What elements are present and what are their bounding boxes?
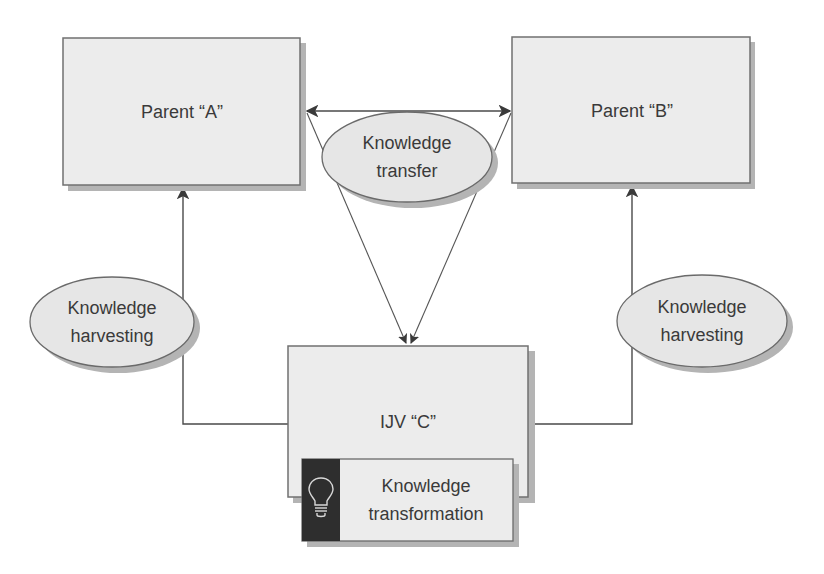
transformation-label-line2: transformation <box>368 504 483 524</box>
ijv-c-label: IJV “C” <box>380 412 436 432</box>
knowledge-harvesting-right-oval[interactable]: Knowledge harvesting <box>617 275 793 373</box>
harvest-left-label-line2: harvesting <box>70 326 153 346</box>
transfer-label-line1: Knowledge <box>362 133 451 153</box>
parent-a-box[interactable]: Parent “A” <box>63 38 306 191</box>
transformation-label-line1: Knowledge <box>381 476 470 496</box>
harvest-right-label-line1: Knowledge <box>657 297 746 317</box>
harvest-left-label-line1: Knowledge <box>67 298 156 318</box>
parent-b-box[interactable]: Parent “B” <box>512 37 755 189</box>
knowledge-transfer-oval[interactable]: Knowledge transfer <box>322 112 498 208</box>
harvest-line-c-to-a <box>183 188 288 424</box>
knowledge-harvesting-left-oval[interactable]: Knowledge harvesting <box>30 277 200 373</box>
knowledge-flow-diagram: Parent “A” Parent “B” Knowledge transfer… <box>0 0 824 574</box>
knowledge-transformation-card[interactable]: Knowledge transformation <box>302 459 519 547</box>
harvest-right-label-line2: harvesting <box>660 325 743 345</box>
harvest-line-c-to-b <box>528 186 632 424</box>
transfer-label-line2: transfer <box>376 161 437 181</box>
icon-panel <box>302 459 340 541</box>
parent-b-label: Parent “B” <box>591 101 673 121</box>
parent-a-label: Parent “A” <box>141 102 223 122</box>
